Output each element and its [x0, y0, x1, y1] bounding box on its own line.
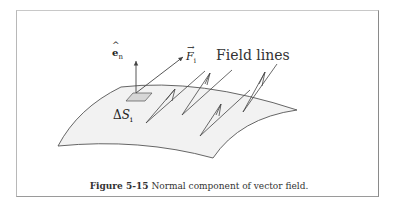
caption-text: Normal component of vector field.: [151, 181, 308, 191]
field-lines-label: Field lines: [216, 47, 290, 63]
surface-subscript: i: [130, 115, 133, 124]
figure-number: Figure 5-15: [90, 181, 149, 191]
force-vector-label: →Fi: [186, 50, 196, 65]
surface-element-label: ΔSi: [113, 108, 132, 124]
hat-accent: ^: [112, 40, 120, 50]
curved-surface: [58, 85, 297, 158]
surface-diagram: [0, 0, 398, 209]
vector-arrow-accent: →: [187, 42, 195, 52]
normal-vector-label: ^en: [112, 47, 123, 61]
force-vector-subscript: i: [194, 57, 196, 65]
surface-symbol: S: [122, 108, 130, 122]
figure-caption: Figure 5-15 Normal component of vector f…: [0, 181, 398, 191]
delta-symbol: Δ: [113, 108, 122, 122]
normal-vector-subscript: n: [118, 53, 123, 61]
